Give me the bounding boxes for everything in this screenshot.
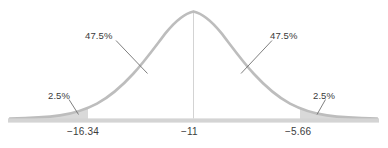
left-tail-percent-label: 2.5% (48, 91, 70, 101)
x-axis-tick-left: −16.34 (67, 127, 99, 137)
right-tail-percent-label: 2.5% (313, 91, 335, 101)
left-body-leader-line (116, 41, 148, 74)
x-axis-tick-center: −11 (181, 127, 198, 137)
right-tail-leader-line (317, 100, 326, 115)
right-body-percent-label: 47.5% (270, 31, 297, 41)
x-axis-tick-right: −5.66 (285, 127, 311, 137)
left-body-percent-label: 47.5% (85, 31, 112, 41)
normal-distribution-chart: 2.5% 2.5% 47.5% 47.5% −16.34 −11 −5.66 (0, 0, 388, 148)
x-axis-baseline (8, 118, 379, 122)
right-body-leader-line (241, 41, 272, 74)
